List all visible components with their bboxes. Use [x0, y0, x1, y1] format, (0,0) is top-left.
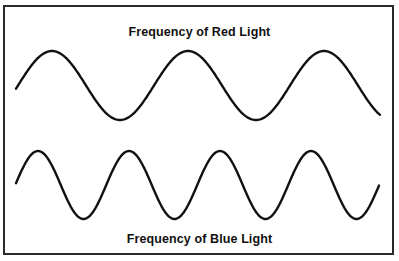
waves-canvas — [0, 0, 399, 261]
blue-light-wave — [16, 151, 379, 219]
red-light-wave — [16, 51, 380, 120]
blue-light-title: Frequency of Blue Light — [0, 232, 399, 246]
